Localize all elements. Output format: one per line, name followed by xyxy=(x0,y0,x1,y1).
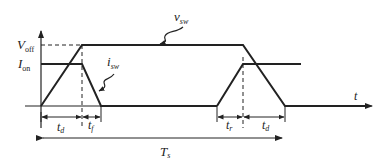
ts-label: Ts xyxy=(160,144,170,160)
v-sw-curve xyxy=(41,45,366,106)
t-axis-label: t xyxy=(354,89,358,103)
tr-label: tr xyxy=(226,118,233,133)
i-sw-curve-on xyxy=(217,64,301,106)
v-sw-label: vsw xyxy=(174,9,189,26)
interval-ticks xyxy=(41,106,285,122)
i-on-label: Ion xyxy=(17,56,30,73)
tf-label: tf xyxy=(88,118,95,133)
i-sw-pointer xyxy=(99,74,114,91)
i-sw-curve-off xyxy=(41,64,217,106)
switching-waveform-diagram: Voff Ion t vsw isw td tf tr td Ts xyxy=(0,0,377,165)
td-on-label: td xyxy=(262,118,270,133)
td-off-label: td xyxy=(57,120,65,135)
i-sw-label: isw xyxy=(107,54,120,71)
v-sw-pointer xyxy=(160,27,183,44)
v-off-label: Voff xyxy=(17,37,34,54)
